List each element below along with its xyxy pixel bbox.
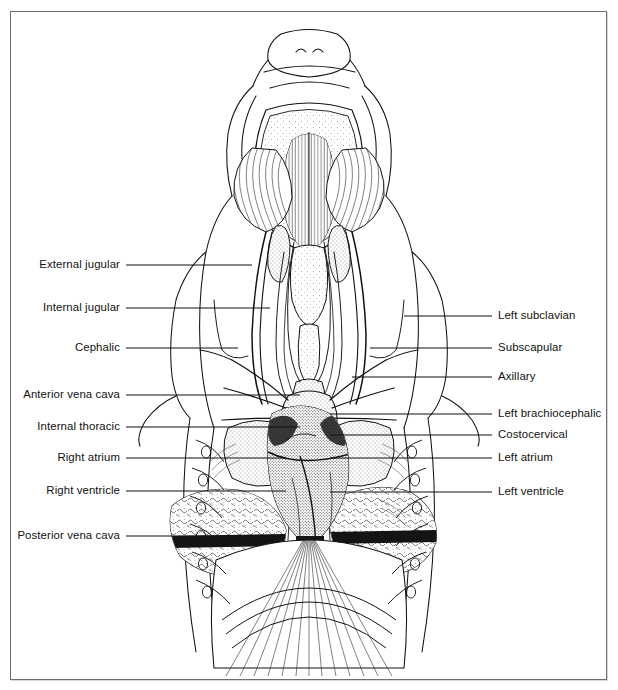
- label-left-subclavian: Left subclavian: [498, 310, 576, 321]
- label-internal-thoracic: Internal thoracic: [37, 421, 120, 432]
- label-left-atrium: Left atrium: [498, 452, 553, 463]
- label-anterior-vena-cava: Anterior vena cava: [23, 389, 120, 400]
- label-subscapular: Subscapular: [498, 342, 562, 353]
- anatomy-plate: External jugular Internal jugular Cephal…: [0, 0, 618, 690]
- label-external-jugular: External jugular: [39, 259, 120, 270]
- label-internal-jugular: Internal jugular: [43, 302, 120, 313]
- label-cephalic: Cephalic: [75, 342, 120, 353]
- label-right-atrium: Right atrium: [57, 452, 120, 463]
- label-costocervical: Costocervical: [498, 429, 568, 440]
- label-axillary: Axillary: [498, 371, 536, 382]
- label-posterior-vena-cava: Posterior vena cava: [17, 530, 120, 541]
- label-left-ventricle: Left ventricle: [498, 486, 564, 497]
- label-right-ventricle: Right ventricle: [46, 485, 120, 496]
- label-left-brachiocephalic: Left brachiocephalic: [498, 408, 601, 419]
